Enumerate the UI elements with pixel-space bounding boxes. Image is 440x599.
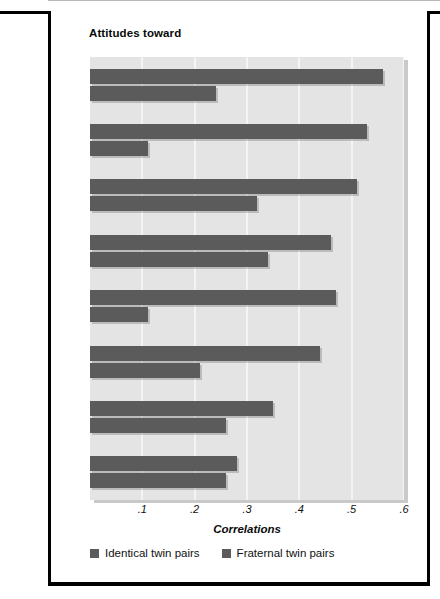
legend-label: Fraternal twin pairs — [237, 547, 335, 559]
x-tick-label-p3: .3 — [242, 503, 251, 515]
page-edge-line — [48, 0, 440, 1]
bar-crossword-puzzles-identical — [90, 290, 336, 305]
gridline-p6 — [403, 57, 404, 500]
legend-label: Identical twin pairs — [105, 547, 200, 559]
bar-the-death-penalty-identical — [90, 235, 331, 250]
legend-swatch-icon — [90, 549, 99, 558]
legend-item-fraternal-twin-pairs[interactable]: Fraternal twin pairs — [222, 547, 335, 559]
bar-traditional-sex-roles-fraternal — [90, 473, 226, 488]
legend-swatch-icon — [222, 549, 231, 558]
x-axis-title: Correlations — [90, 523, 404, 535]
chart-title: Attitudes toward — [89, 27, 181, 39]
bar-reading-books-identical — [90, 69, 383, 84]
x-tick-label-p5: .5 — [347, 503, 356, 515]
x-tick-label-p2: .2 — [190, 503, 199, 515]
bar-reading-books-fraternal — [90, 86, 216, 101]
x-tick-label-p6: .6 — [399, 503, 408, 515]
bar-roller-coasters-identical — [90, 179, 357, 194]
x-tick-label-p4: .4 — [295, 503, 304, 515]
x-axis-ticks: .1.2.3.4.5.6 — [90, 503, 410, 521]
bar-playing-sports-fraternal — [90, 141, 148, 156]
x-tick-label-p1: .1 — [138, 503, 147, 515]
legend-item-identical-twin-pairs[interactable]: Identical twin pairs — [90, 547, 200, 559]
bar-public-speaking-fraternal — [90, 418, 226, 433]
bar-organized-religion-fraternal — [90, 363, 200, 378]
figure-frame: Attitudes toward ReadingbooksPlayingspor… — [48, 11, 430, 586]
bar-the-death-penalty-fraternal — [90, 252, 268, 267]
bar-organized-religion-identical — [90, 346, 320, 361]
bar-traditional-sex-roles-identical — [90, 456, 237, 471]
bar-playing-sports-identical — [90, 124, 367, 139]
bar-crossword-puzzles-fraternal — [90, 307, 148, 322]
bar-public-speaking-identical — [90, 401, 273, 416]
chart-legend: Identical twin pairsFraternal twin pairs — [90, 547, 420, 559]
bar-roller-coasters-fraternal — [90, 196, 257, 211]
figure-page: Attitudes toward ReadingbooksPlayingspor… — [0, 0, 440, 599]
plot-area — [90, 57, 404, 500]
